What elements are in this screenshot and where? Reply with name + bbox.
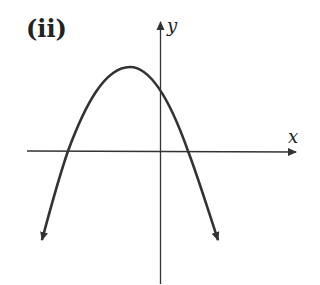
parabola-curve [68, 67, 188, 151]
panel-label: (ii) [26, 14, 67, 43]
x-axis-label: x [288, 126, 298, 147]
parabola-right-branch [188, 151, 218, 240]
y-axis-label: y [167, 15, 177, 36]
parabola-left-branch [42, 151, 68, 240]
